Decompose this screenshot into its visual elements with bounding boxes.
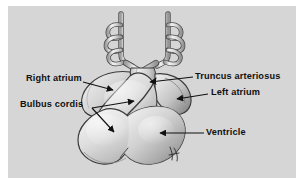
figure-root: Right atrium Bulbus cordis Truncus arter… xyxy=(0,0,305,189)
label-bulbus-cordis: Bulbus cordis xyxy=(20,100,83,109)
ventricle-highlight-left xyxy=(86,114,126,146)
label-left-atrium: Left atrium xyxy=(211,88,260,97)
label-ventricle: Ventricle xyxy=(206,128,246,137)
ventricle-highlight-right xyxy=(138,116,174,144)
label-right-atrium: Right atrium xyxy=(26,74,82,83)
figure-panel: Right atrium Bulbus cordis Truncus arter… xyxy=(8,6,296,178)
label-truncus-arteriosus: Truncus arteriosus xyxy=(195,72,280,81)
